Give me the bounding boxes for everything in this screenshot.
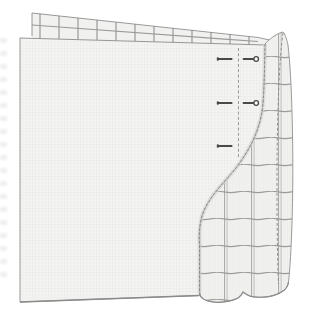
illustration-canvas — [0, 0, 314, 328]
page-scan-artifact — [0, 38, 7, 282]
sewing-illustration — [0, 0, 314, 328]
